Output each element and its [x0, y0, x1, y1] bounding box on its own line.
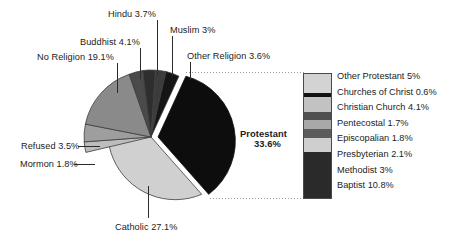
legend-item: Churches of Christ 0.6%	[337, 85, 464, 101]
pie-chart-figure: Hindu 3.7% Buddhist 4.1% No Religion 19.…	[0, 0, 464, 247]
legend-item: Episcopalian 1.8%	[337, 131, 464, 147]
legend-item: Pentecostal 1.7%	[337, 116, 464, 132]
label-refused: Refused 3.5%	[21, 141, 79, 152]
protestant-breakout-bar	[303, 73, 332, 199]
leader-muslim	[172, 36, 173, 76]
bar-segment-presbyterian[interactable]	[304, 129, 331, 138]
label-no-religion: No Religion 19.1%	[37, 52, 114, 63]
label-catholic: Catholic 27.1%	[115, 222, 178, 233]
legend-item: Methodist 3%	[337, 163, 464, 179]
bar-segment-other-protestant[interactable]	[304, 74, 331, 93]
breakout-legend: Other Protestant 5% Churches of Christ 0…	[337, 69, 464, 194]
label-mormon: Mormon 1.8%	[20, 159, 78, 170]
bar-segment-episcopalian[interactable]	[304, 120, 331, 129]
label-hindu: Hindu 3.7%	[108, 9, 156, 20]
connector-dots-bottom	[210, 198, 304, 199]
leader-hindu	[157, 20, 158, 75]
leader-catholic	[148, 186, 149, 218]
legend-item: Baptist 10.8%	[337, 178, 464, 194]
label-buddhist: Buddhist 4.1%	[80, 37, 140, 48]
legend-item: Other Protestant 5%	[337, 69, 464, 85]
leader-other-religion	[190, 62, 191, 80]
label-other-religion: Other Religion 3.6%	[187, 51, 270, 62]
label-protestant-value: 33.6%	[240, 138, 295, 149]
label-muslim: Muslim 3%	[170, 25, 215, 36]
leader-no-religion	[117, 63, 118, 93]
leader-buddhist	[140, 48, 141, 79]
legend-item: Presbyterian 2.1%	[337, 147, 464, 163]
connector-dots-top	[186, 72, 304, 73]
bar-segment-baptist[interactable]	[304, 152, 331, 198]
legend-item: Christian Church 4.1%	[337, 100, 464, 116]
bar-segment-pentecostal[interactable]	[304, 112, 331, 120]
bar-segment-methodist[interactable]	[304, 138, 331, 152]
leader-refused	[78, 146, 100, 147]
bar-segment-christian-church[interactable]	[304, 97, 331, 112]
